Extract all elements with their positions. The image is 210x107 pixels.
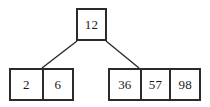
leaf-node-right: 36 57 98 — [108, 68, 201, 101]
edge-root-to-left-leaf — [42, 41, 77, 68]
node-key-cell: 57 — [140, 70, 170, 99]
root-node: 12 — [76, 8, 107, 41]
b-tree-diagram: 12 2 6 36 57 98 — [0, 0, 210, 107]
node-key-cell: 98 — [169, 70, 199, 99]
node-key-cell: 36 — [110, 70, 140, 99]
leaf-node-left: 2 6 — [9, 68, 74, 101]
edge-root-to-right-leaf — [106, 41, 139, 68]
node-key-cell: 12 — [78, 10, 105, 39]
node-key-cell: 2 — [11, 70, 42, 99]
node-key-cell: 6 — [42, 70, 73, 99]
